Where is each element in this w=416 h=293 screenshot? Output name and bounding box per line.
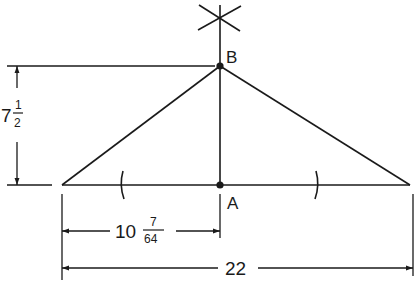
right-side (220, 66, 410, 185)
svg-text:7: 7 (1, 105, 12, 126)
point-b-label: B (226, 48, 237, 67)
point-a-dot (216, 181, 223, 188)
svg-text:7: 7 (150, 215, 157, 229)
left-side (62, 66, 220, 185)
svg-text:64: 64 (144, 232, 158, 246)
base-label: 22 (225, 258, 246, 279)
half-base-label: 10 7 64 (115, 215, 164, 246)
point-a-label: A (227, 194, 239, 213)
svg-text:10: 10 (115, 221, 136, 242)
triangle-construction-diagram: B A 7 1 2 10 7 64 22 (0, 0, 416, 293)
svg-text:2: 2 (14, 116, 21, 130)
svg-text:1: 1 (15, 98, 22, 112)
point-b-dot (216, 62, 223, 69)
height-label: 7 1 2 (1, 98, 23, 130)
